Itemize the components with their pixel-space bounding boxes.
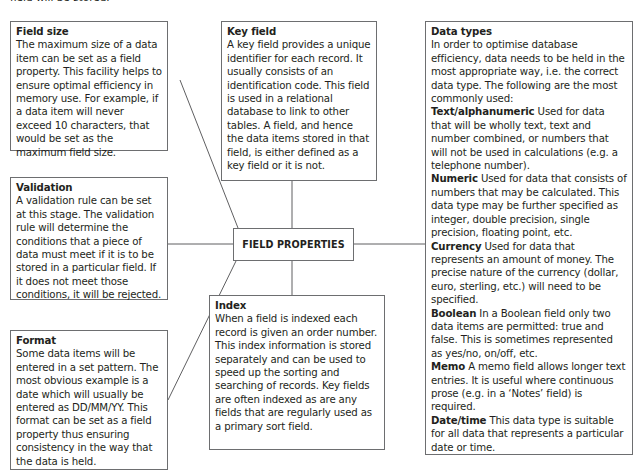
field-properties-center-box: FIELD PROPERTIES [233,228,354,261]
validation-body: A validation rule can be set at this sta… [16,194,162,301]
data-types-box: Data types In order to optimise database… [425,21,633,455]
data-type-item-boolean: Boolean In a Boolean field only two data… [431,307,627,361]
data-type-item-currency: Currency Used for data that represents a… [431,240,627,307]
format-title: Format [16,334,162,347]
data-type-term: Boolean [431,308,476,319]
field-size-body: The maximum size of a data item can be s… [16,38,162,159]
validation-title: Validation [16,181,162,194]
index-body: When a field is indexed each record is g… [215,312,379,433]
key-field-title: Key field [227,25,371,38]
key-field-box: Key field A key field provides a unique … [221,21,377,181]
data-type-item-datetime: Date/time This data type is suitable for… [431,414,627,454]
data-type-item-text: Text/alphanumeric Used for data that wil… [431,105,627,172]
data-type-term: Memo [431,361,465,372]
data-types-intro: In order to optimise database efficiency… [431,38,627,105]
data-types-title: Data types [431,25,627,38]
format-body: Some data items will be entered in a set… [16,347,162,468]
format-box: Format Some data items will be entered i… [10,330,168,470]
data-type-term: Numeric [431,173,478,184]
data-type-term: Currency [431,241,481,252]
field-properties-label: FIELD PROPERTIES [242,239,344,250]
index-title: Index [215,299,379,312]
field-size-title: Field size [16,25,162,38]
data-type-item-memo: Memo A memo field allows longer text ent… [431,360,627,414]
data-type-item-numeric: Numeric Used for data that consists of n… [431,172,627,239]
data-type-term: Text/alphanumeric [431,106,535,117]
data-type-term: Date/time [431,415,486,426]
index-box: Index When a field is indexed each recor… [209,295,385,450]
field-size-box: Field size The maximum size of a data it… [10,21,168,151]
key-field-body: A key field provides a unique identifier… [227,38,371,172]
validation-box: Validation A validation rule can be set … [10,177,168,300]
